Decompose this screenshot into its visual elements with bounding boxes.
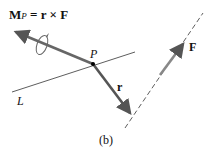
moment-label: MP = r × F bbox=[9, 7, 68, 23]
point-P bbox=[91, 62, 95, 66]
force-vector-arrow bbox=[160, 44, 183, 75]
position-vector-arrow bbox=[93, 64, 130, 113]
moment-equation-rhs: = r × F bbox=[27, 7, 68, 22]
figure-caption: (b) bbox=[99, 133, 113, 148]
moment-vector-arrow bbox=[16, 32, 93, 64]
point-label: P bbox=[90, 47, 97, 62]
moment-symbol: M bbox=[9, 7, 21, 22]
position-vector-label: r bbox=[117, 80, 122, 95]
moment-diagram: MP = r × F P L r F (b) bbox=[0, 0, 206, 157]
line-label: L bbox=[17, 94, 24, 109]
force-label: F bbox=[189, 40, 196, 55]
rotation-arrow-icon bbox=[34, 34, 50, 56]
